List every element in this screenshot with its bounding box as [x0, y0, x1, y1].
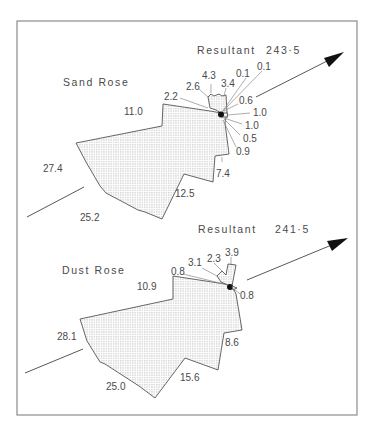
- sand-value-label: 0.1: [257, 61, 271, 72]
- dust-value-label: 3.1: [188, 257, 202, 268]
- dust-rose: Dust Rose Resultant 241·5 3.9 2.3 3.1 0.…: [25, 223, 348, 398]
- dust-value-label: 28.1: [57, 331, 77, 342]
- dust-resultant-tail: [25, 349, 83, 373]
- dust-value-label: 0.8: [240, 290, 254, 301]
- sand-value-label: 7.4: [216, 168, 230, 179]
- sand-value-label: 0.5: [243, 133, 257, 144]
- sand-resultant-tail: [27, 187, 84, 217]
- dust-value-label: 8.6: [225, 337, 239, 348]
- dust-rose-title: Dust Rose: [62, 264, 125, 276]
- dust-value-label: 10.9: [137, 281, 157, 292]
- sand-rose-shape: [76, 94, 229, 219]
- sand-value-label: 0.1: [236, 68, 250, 79]
- dust-resultant-arrowhead: [327, 238, 348, 251]
- sand-resultant-label: Resultant: [197, 44, 256, 56]
- sand-resultant-arrowhead: [324, 52, 344, 67]
- sand-value-label: 0.6: [239, 95, 253, 106]
- dust-value-label: 2.3: [207, 253, 221, 264]
- sand-value-label: 2.2: [164, 91, 178, 102]
- dust-value-label: 3.9: [225, 247, 239, 258]
- sand-rose-title: Sand Rose: [63, 76, 129, 88]
- sand-value-label: 25.2: [80, 212, 100, 223]
- dust-value-label: 15.6: [180, 372, 200, 383]
- sand-resultant-value: 243·5: [266, 44, 301, 56]
- sand-value-label: 12.5: [175, 188, 195, 199]
- dust-resultant-label: Resultant: [198, 223, 257, 235]
- dust-resultant-value: 241·5: [275, 223, 310, 235]
- dust-rose-shape: [80, 264, 242, 398]
- sand-value-label: 0.9: [236, 146, 250, 157]
- sand-value-label: 1.0: [245, 120, 259, 131]
- dust-value-label: 25.0: [106, 381, 126, 392]
- dust-value-label: 0.8: [171, 266, 185, 277]
- sand-value-label: 2.6: [186, 81, 200, 92]
- sand-value-label: 27.4: [43, 163, 63, 174]
- sand-rose-center-dot: [218, 112, 224, 118]
- dust-resultant-arrow: [247, 244, 334, 280]
- sand-value-label: 11.0: [124, 106, 143, 117]
- wind-rose-figure: Sand Rose Resultant 243·5 0.1 0.1 3.4 4.…: [0, 0, 375, 433]
- sand-value-label: 3.4: [221, 78, 235, 89]
- sand-value-label: 4.3: [202, 70, 216, 81]
- sand-value-label: 1.0: [253, 107, 267, 118]
- sand-rose: Sand Rose Resultant 243·5 0.1 0.1 3.4 4.…: [27, 44, 344, 223]
